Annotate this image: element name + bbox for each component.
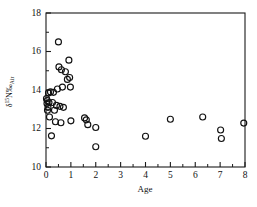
x-tick-label: 3 bbox=[118, 170, 123, 180]
data-point bbox=[167, 116, 173, 122]
data-point bbox=[93, 144, 99, 150]
x-tick-label: 0 bbox=[44, 170, 49, 180]
x-tick-label: 4 bbox=[143, 170, 148, 180]
x-tick-label: 5 bbox=[168, 170, 173, 180]
data-point bbox=[93, 125, 99, 131]
svg-text:Age: Age bbox=[138, 184, 153, 194]
x-tick-label: 7 bbox=[218, 170, 223, 180]
svg-text:δ15N‰Air: δ15N‰Air bbox=[4, 77, 15, 108]
data-point bbox=[218, 136, 224, 142]
x-axis-title: Age bbox=[138, 184, 153, 194]
y-tick-label: 18 bbox=[32, 8, 42, 18]
plot-frame bbox=[46, 13, 245, 167]
data-point bbox=[241, 120, 247, 126]
scatter-plot-figure: 1012141618 012345678 Age δ15N‰Air bbox=[0, 0, 257, 207]
data-point bbox=[200, 114, 206, 120]
y-axis-tick-labels: 1012141618 bbox=[32, 8, 42, 172]
data-point bbox=[60, 104, 66, 110]
plot-canvas: 1012141618 012345678 Age δ15N‰Air bbox=[0, 0, 257, 207]
data-point bbox=[68, 118, 74, 124]
y-axis-title: δ15N‰Air bbox=[4, 77, 15, 108]
data-point bbox=[46, 114, 52, 120]
x-tick-label: 6 bbox=[193, 170, 198, 180]
data-point bbox=[55, 39, 61, 45]
x-axis-tick-labels: 012345678 bbox=[44, 170, 248, 180]
data-point bbox=[48, 133, 54, 139]
data-point-group bbox=[44, 39, 247, 150]
x-tick-label: 8 bbox=[243, 170, 248, 180]
x-tick-label: 2 bbox=[93, 170, 98, 180]
data-point bbox=[143, 133, 149, 139]
y-tick-label: 10 bbox=[32, 162, 42, 172]
data-point bbox=[67, 84, 73, 90]
y-tick-label: 14 bbox=[32, 85, 42, 95]
x-tick-label: 1 bbox=[69, 170, 74, 180]
data-point bbox=[218, 127, 224, 133]
y-tick-label: 12 bbox=[32, 123, 42, 133]
y-tick-label: 16 bbox=[32, 46, 42, 56]
x-axis-major-ticks bbox=[46, 162, 245, 167]
data-point bbox=[66, 57, 72, 63]
